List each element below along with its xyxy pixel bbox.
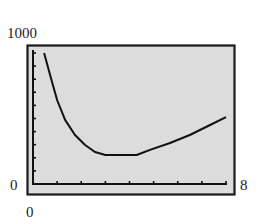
plot-background (27, 45, 235, 195)
graph-window (0, 0, 261, 224)
